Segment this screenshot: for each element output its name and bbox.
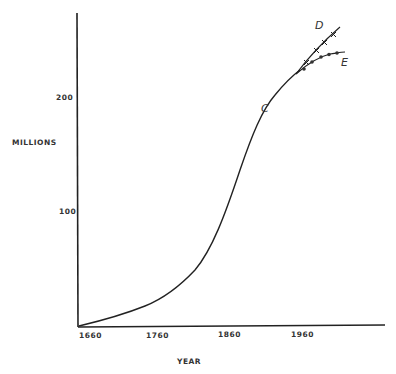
y-tick-100: 100 — [59, 207, 76, 216]
y-axis-label: MILLIONS — [12, 138, 57, 147]
curve-d-label: D — [315, 19, 323, 32]
x-axis — [78, 325, 385, 327]
population-chart: 200 100 MILLIONS 1660 1760 1860 1960 YEA… — [0, 0, 396, 374]
curve-c-label: C — [261, 102, 269, 115]
curve-e-label: E — [341, 56, 348, 69]
x-tick-1660: 1660 — [79, 331, 102, 340]
y-tick-200: 200 — [56, 93, 73, 102]
y-axis — [77, 13, 78, 327]
chart-canvas — [0, 0, 396, 374]
x-tick-1760: 1760 — [146, 331, 169, 340]
curve-d-markers — [304, 32, 336, 65]
x-axis-label: YEAR — [177, 357, 201, 366]
x-tick-1960: 1960 — [291, 330, 314, 339]
x-tick-1860: 1860 — [218, 330, 241, 339]
